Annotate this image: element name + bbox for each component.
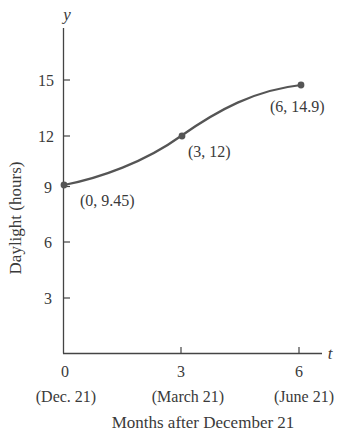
y-ticks — [64, 80, 71, 298]
chart: y t 3 6 9 12 15 0 3 6 (Dec. 21) (March 2… — [0, 0, 348, 436]
x-ticks — [181, 347, 299, 354]
y-tick-label: 12 — [38, 128, 54, 145]
y-tick-label: 3 — [44, 290, 52, 307]
data-point — [61, 182, 68, 189]
x-tick-label: 0 — [61, 363, 69, 380]
y-axis-variable: y — [61, 5, 71, 24]
y-axis-title: Daylight (hours) — [6, 162, 25, 275]
data-point — [298, 82, 305, 89]
y-tick-label: 15 — [38, 72, 54, 89]
x-tick-sublabel: (Dec. 21) — [36, 388, 96, 406]
x-axis-title: Months after December 21 — [112, 413, 295, 432]
y-tick-label: 9 — [44, 179, 52, 196]
data-point — [179, 133, 186, 140]
x-tick-label: 6 — [295, 363, 303, 380]
x-tick-sublabel: (June 21) — [274, 388, 334, 406]
point-annotation: (6, 14.9) — [270, 98, 325, 116]
x-tick-label: 3 — [177, 363, 185, 380]
y-tick-label: 6 — [44, 234, 52, 251]
point-annotation: (3, 12) — [188, 143, 231, 161]
x-axis-variable: t — [328, 344, 334, 363]
x-tick-sublabel: (March 21) — [152, 388, 224, 406]
point-annotation: (0, 9.45) — [80, 192, 135, 210]
